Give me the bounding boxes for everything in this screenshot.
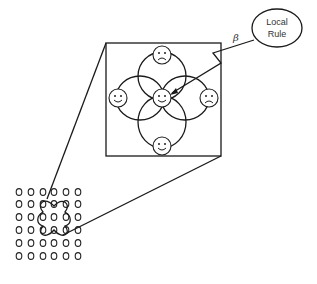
lattice-cell bbox=[63, 189, 69, 196]
lattice-cell bbox=[16, 253, 22, 260]
local-rule-diagram: β Local Rule bbox=[0, 0, 317, 284]
lattice-cell bbox=[40, 214, 46, 221]
beta-label: β bbox=[232, 32, 239, 43]
face-bottom bbox=[153, 137, 171, 155]
lattice-cell bbox=[75, 240, 81, 247]
lattice-cell bbox=[16, 227, 22, 234]
local-rule-label-line1: Local bbox=[266, 17, 288, 27]
lattice-cell bbox=[63, 240, 69, 247]
lattice-cell bbox=[75, 189, 81, 196]
projection-line-lower bbox=[63, 156, 221, 235]
lattice-cell bbox=[28, 240, 34, 247]
lattice-cell bbox=[28, 253, 34, 260]
lattice-cell bbox=[16, 189, 22, 196]
lattice-cell bbox=[16, 214, 22, 221]
face-left bbox=[109, 89, 127, 107]
face-right bbox=[200, 89, 218, 107]
lattice-cell bbox=[51, 189, 57, 196]
local-rule-label-line2: Rule bbox=[268, 29, 287, 39]
lattice-cell bbox=[28, 214, 34, 221]
lattice-cell bbox=[63, 253, 69, 260]
lattice-cell bbox=[75, 201, 81, 208]
rule-arrow bbox=[170, 40, 254, 95]
lattice-cell bbox=[51, 253, 57, 260]
projection-line-upper bbox=[47, 43, 106, 199]
lattice-cell bbox=[51, 214, 57, 221]
face-center bbox=[153, 89, 171, 107]
lattice-cell bbox=[40, 253, 46, 260]
lattice-grid bbox=[16, 189, 81, 260]
lattice-cell bbox=[75, 253, 81, 260]
lattice-cell bbox=[28, 201, 34, 208]
lattice-cell bbox=[40, 189, 46, 196]
lattice-cell bbox=[16, 201, 22, 208]
lattice-cell bbox=[40, 240, 46, 247]
lattice-cell bbox=[75, 214, 81, 221]
lattice-cell bbox=[28, 189, 34, 196]
face-top bbox=[153, 46, 171, 64]
local-rule-node bbox=[252, 9, 302, 47]
lattice-cell bbox=[16, 240, 22, 247]
lattice-cell bbox=[51, 240, 57, 247]
neighborhood-highlight bbox=[38, 201, 71, 235]
lattice-cell bbox=[28, 227, 34, 234]
